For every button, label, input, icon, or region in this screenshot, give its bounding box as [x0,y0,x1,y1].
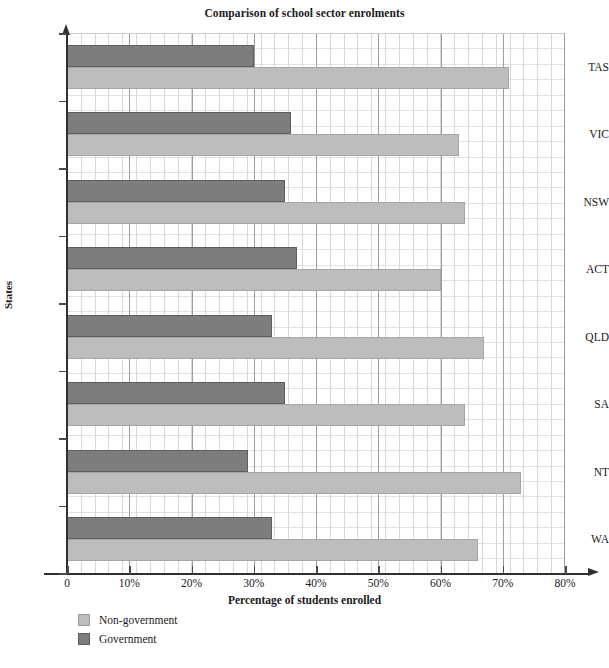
bar-government-sa [67,382,285,404]
legend-swatch-icon [78,614,90,626]
x-axis-tick-label: 10% [104,577,154,589]
legend-swatch-icon [78,633,90,645]
y-axis-title: States [2,265,14,325]
x-axis-tick [316,566,318,574]
bar-government-nt [67,450,248,472]
bar-non-government-nt [67,472,521,494]
legend-item-nongov: Non-government [78,610,178,629]
bar-non-government-nsw [67,202,465,224]
bar-non-government-act [67,269,441,291]
y-axis-tick [59,236,67,238]
bar-government-vic [67,112,291,134]
x-axis-tick [67,566,69,574]
y-axis-tick [59,438,67,440]
bar-government-wa [67,517,272,539]
bar-chart: Comparison of school sector enrolments T… [0,0,609,668]
y-axis-tick-label-wa: WA [555,533,609,545]
x-axis-tick [129,566,131,574]
bar-non-government-sa [67,404,465,426]
bar-government-act [67,247,297,269]
x-axis-tick-label: 50% [353,577,403,589]
y-axis-tick [59,101,67,103]
y-axis-tick-label-vic: VIC [555,128,609,140]
y-axis-tick-label-act: ACT [555,263,609,275]
y-axis-tick [59,303,67,305]
x-axis-tick-label: 60% [416,577,466,589]
x-axis-tick-label: 70% [478,577,528,589]
chart-legend: Non-governmentGovernment [78,610,178,648]
x-axis-arrow-icon [588,568,599,576]
y-axis-tick [59,371,67,373]
bar-government-tas [67,45,254,67]
y-axis-tick-label-nt: NT [555,466,609,478]
y-axis-tick-label-nsw: NSW [555,196,609,208]
y-axis-tick [59,168,67,170]
bar-government-qld [67,315,272,337]
bar-government-nsw [67,180,285,202]
bar-non-government-tas [67,67,509,89]
y-axis-tick-label-qld: QLD [555,331,609,343]
x-axis-tick-label: 80% [540,577,590,589]
legend-item-gov: Government [78,629,178,648]
plot-area [67,33,565,573]
legend-label: Government [99,633,156,645]
plot-top-border [67,33,565,34]
bar-non-government-vic [67,134,459,156]
y-axis-tick-label-tas: TAS [555,61,609,73]
x-axis-tick [503,566,505,574]
x-axis-tick [254,566,256,574]
x-axis-tick [192,566,194,574]
x-axis-tick-label: 20% [167,577,217,589]
x-axis-tick-label: 0 [42,577,92,589]
x-axis-tick-label: 40% [291,577,341,589]
bar-non-government-qld [67,337,484,359]
y-axis-tick [59,506,67,508]
y-axis-tick-label-sa: SA [555,398,609,410]
y-axis-tick [59,573,67,575]
y-axis-tick [59,33,67,35]
x-axis-tick-label: 30% [229,577,279,589]
x-axis-tick [378,566,380,574]
bar-non-government-wa [67,539,478,561]
x-axis-tick [565,566,567,574]
plot-right-border [564,33,565,573]
x-axis-tick [441,566,443,574]
x-axis-title: Percentage of students enrolled [0,594,609,606]
chart-title: Comparison of school sector enrolments [0,7,609,19]
legend-label: Non-government [99,614,178,626]
